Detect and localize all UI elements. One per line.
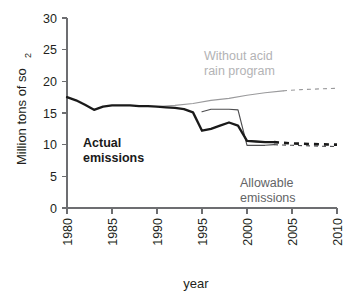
y-axis-title: Million tons of so 2 — [14, 53, 33, 165]
y-tick-label: 15 — [43, 107, 57, 121]
y-axis-tick-labels: 0 5 10 15 20 25 30 — [43, 12, 57, 216]
x-tick-label: 2005 — [286, 218, 300, 246]
emissions-line-chart: 0 5 10 15 20 25 30 Million tons of so 2 … — [0, 0, 355, 297]
series-without-acid-rain-program — [157, 91, 283, 107]
x-tick-label: 1980 — [61, 218, 75, 246]
y-tick-label: 10 — [43, 138, 57, 152]
chart-figure: 0 5 10 15 20 25 30 Million tons of so 2 … — [0, 0, 355, 297]
y-axis-title-subscript: 2 — [23, 53, 33, 58]
y-tick-label: 25 — [43, 43, 57, 57]
x-axis-tick-labels: 1980 1985 1990 1995 2000 2005 2010 — [61, 218, 345, 246]
x-tick-label: 1995 — [196, 218, 210, 246]
y-tick-label: 0 — [50, 202, 57, 216]
x-tick-label: 2010 — [331, 218, 345, 246]
series-actual-emissions-projected — [274, 142, 337, 145]
x-tick-label: 1990 — [151, 218, 165, 246]
x-axis-title: year — [183, 276, 209, 291]
x-tick-label: 2000 — [241, 218, 255, 246]
y-tick-label: 20 — [43, 75, 57, 89]
annotation-allowable-emissions: Allowable emissions — [240, 176, 296, 206]
annotation-actual-emissions: Actual emissions — [83, 136, 144, 166]
y-tick-label: 5 — [50, 170, 57, 184]
y-tick-label: 30 — [43, 12, 57, 26]
annotation-without-acid-rain-program: Without acid rain program — [204, 49, 275, 79]
x-axis-ticks — [67, 208, 337, 214]
x-tick-label: 1985 — [106, 218, 120, 246]
y-axis-ticks — [62, 18, 67, 208]
series-without-acid-rain-program-projected — [283, 88, 337, 91]
y-axis-title-text: Million tons of so — [14, 68, 29, 165]
